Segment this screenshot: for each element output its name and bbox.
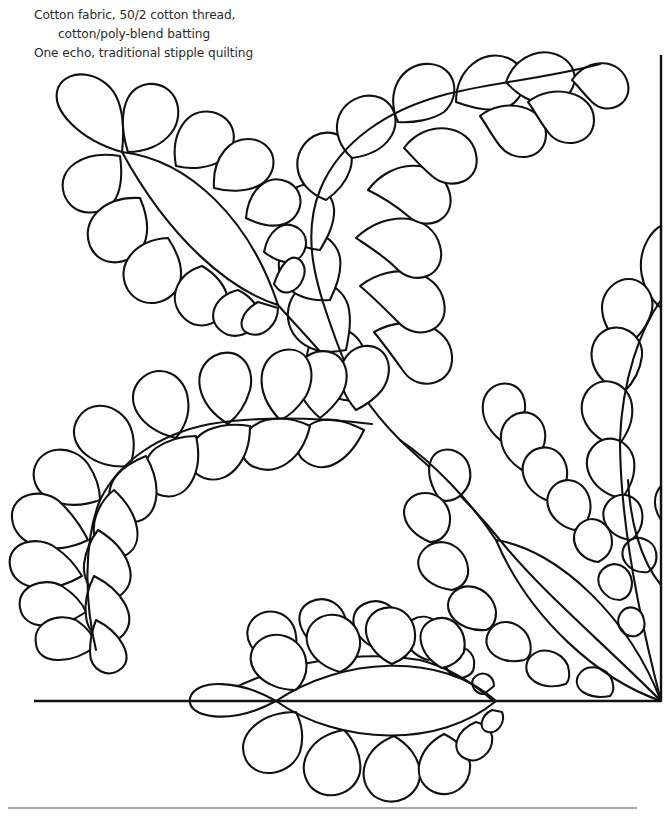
bottom-center-leaf-group <box>190 607 503 801</box>
feather-quilting-illustration <box>0 0 669 819</box>
